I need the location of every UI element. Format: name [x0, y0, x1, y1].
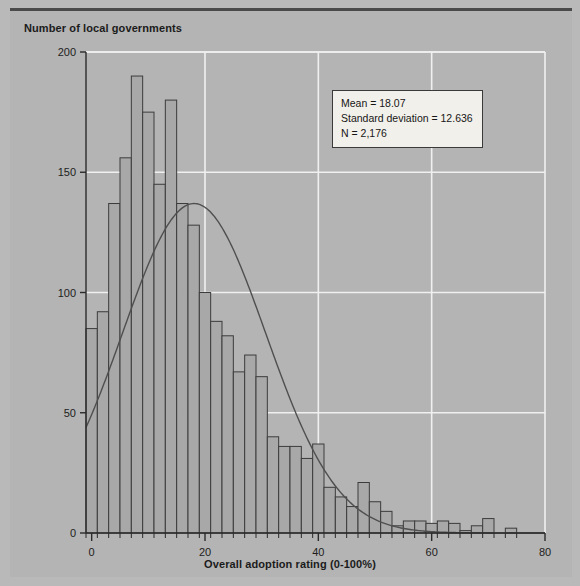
histogram-bar [199, 293, 210, 534]
y-tick-label: 0 [70, 527, 76, 539]
statistics-annotation-box: Mean = 18.07 Standard deviation = 12.636… [332, 90, 483, 148]
x-tick-label: 80 [539, 546, 551, 558]
stat-n: N = 2,176 [341, 126, 473, 141]
histogram-bar [245, 355, 256, 533]
stat-mean: Mean = 18.07 [341, 96, 473, 111]
histogram-bar [267, 437, 278, 533]
histogram-bar [505, 528, 516, 533]
y-tick-label: 50 [64, 407, 76, 419]
histogram-bar [233, 372, 244, 533]
x-tick-label: 20 [199, 546, 211, 558]
x-tick-label: 40 [312, 546, 324, 558]
y-tick-label: 200 [58, 46, 76, 58]
histogram-bar [120, 158, 131, 533]
histogram-bar [358, 483, 369, 534]
histogram-bar [154, 184, 165, 533]
stat-standard-deviation: Standard deviation = 12.636 [341, 111, 473, 126]
histogram-bar [324, 487, 335, 533]
histogram-bar [211, 321, 222, 533]
histogram-bar [301, 458, 312, 533]
histogram-bar [279, 446, 290, 533]
y-tick-label: 150 [58, 166, 76, 178]
histogram-bar [483, 519, 494, 533]
histogram-bar [403, 521, 414, 533]
histogram-bar [222, 336, 233, 533]
x-tick-label: 60 [426, 546, 438, 558]
histogram-bar [471, 526, 482, 533]
histogram-bar [165, 100, 176, 533]
plot-area: 050100150200020406080 [0, 0, 580, 586]
histogram-bar [347, 507, 358, 533]
histogram-bar [143, 112, 154, 533]
histogram-bar [335, 497, 346, 533]
y-tick-label: 100 [58, 287, 76, 299]
histogram-bar [437, 521, 448, 533]
histogram-bar [256, 377, 267, 533]
histogram-bar [188, 225, 199, 533]
x-axis-title: Overall adoption rating (0-100%) [0, 558, 580, 570]
histogram-bar [290, 446, 301, 533]
histogram-bar [86, 329, 97, 533]
histogram-figure: Number of local governments 050100150200… [0, 0, 580, 586]
x-tick-label: 0 [89, 546, 95, 558]
histogram-bar [313, 444, 324, 533]
histogram-bar [449, 523, 460, 533]
histogram-bar [177, 204, 188, 533]
histogram-bar [97, 312, 108, 533]
